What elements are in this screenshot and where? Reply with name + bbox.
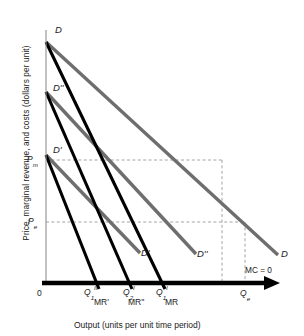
q1p-subscript: 1 bbox=[163, 294, 166, 301]
x-tick-label-qe: Qe bbox=[240, 288, 250, 298]
demand-curve-D-double-prime bbox=[46, 92, 196, 254]
demand-curve-D-prime bbox=[46, 155, 140, 253]
y-tick-label-pe: Pe bbox=[28, 216, 37, 226]
curve-label-D-top: D bbox=[55, 24, 62, 35]
y-tick-label-pm: Pm bbox=[27, 154, 38, 164]
q1pp-superscript: II bbox=[94, 284, 97, 291]
pm-subscript: m bbox=[33, 161, 38, 168]
q2p-base: Q bbox=[123, 287, 130, 297]
pe-subscript: e bbox=[34, 223, 37, 230]
x-axis-arrowhead bbox=[264, 276, 280, 290]
curve-label-D-double-prime-end: D'' bbox=[197, 248, 208, 259]
x-axis-title: Output (units per unit time period) bbox=[74, 320, 201, 330]
annotation-mc-zero: MC = 0 bbox=[245, 265, 272, 275]
curve-label-D-double-prime-top: D'' bbox=[53, 82, 64, 93]
q1pp-subscript: 1 bbox=[91, 294, 94, 301]
q1p-superscript: I bbox=[166, 284, 168, 291]
x-tick-label-q1-double-prime: Q1II bbox=[84, 287, 98, 297]
curve-label-MR-prime: MR' bbox=[94, 297, 109, 307]
origin-label: 0 bbox=[37, 288, 42, 298]
q1p-base: Q bbox=[156, 287, 163, 297]
curve-label-D-prime-top: D' bbox=[53, 144, 62, 155]
curve-label-MR: MR bbox=[165, 297, 178, 307]
x-tick-label-q2-prime: Q2I bbox=[123, 287, 135, 297]
curve-label-D-end: D bbox=[281, 248, 288, 259]
qe-base: Q bbox=[240, 288, 247, 298]
chart-canvas bbox=[0, 0, 304, 336]
q2p-superscript: I bbox=[133, 284, 135, 291]
qe-subscript: e bbox=[247, 295, 250, 302]
pe-base: P bbox=[28, 216, 34, 226]
y-axis-title: Price, marginal revenue, and costs (doll… bbox=[21, 43, 31, 243]
q1pp-base: Q bbox=[84, 287, 91, 297]
x-tick-label-q1-prime: Q1I bbox=[156, 287, 168, 297]
pm-base: P bbox=[27, 154, 33, 164]
demand-curve-D bbox=[46, 42, 278, 255]
curve-label-D-prime-end: D' bbox=[141, 247, 150, 258]
demand-curves bbox=[46, 42, 278, 255]
q2p-subscript: 2 bbox=[130, 294, 133, 301]
economics-chart-figure: Price, marginal revenue, and costs (doll… bbox=[0, 0, 304, 336]
guide-lines bbox=[46, 160, 245, 283]
